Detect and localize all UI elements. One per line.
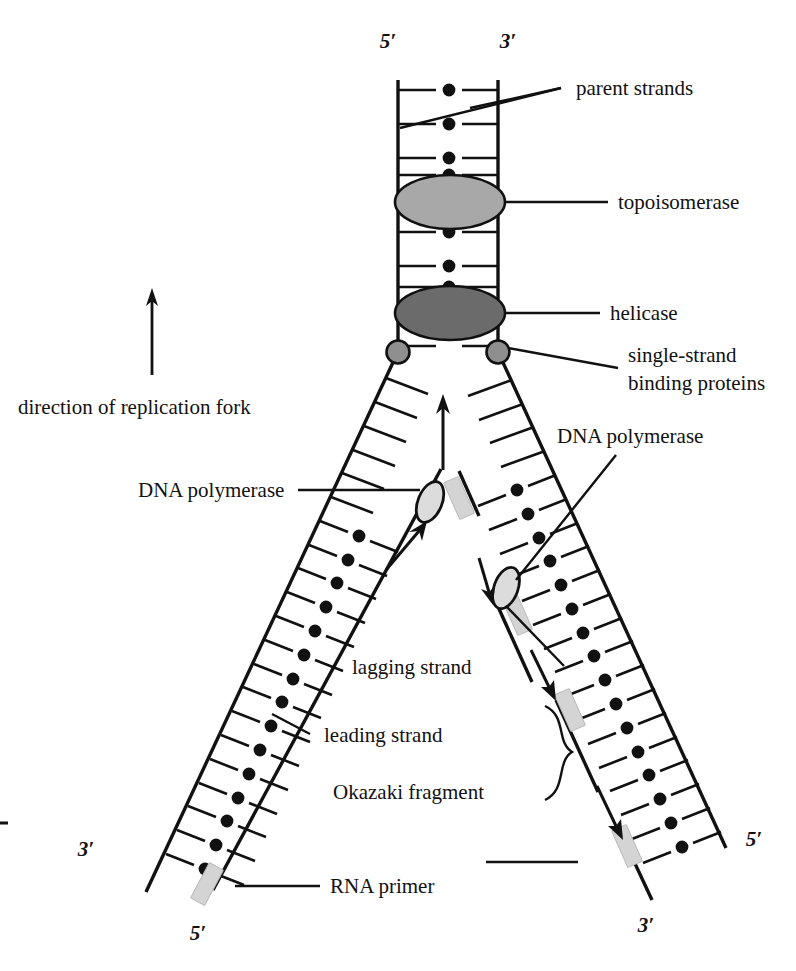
label-bottom-left-outer-prime: 3′ <box>77 837 94 861</box>
label-top-right-prime: 3′ <box>499 29 516 53</box>
topoisomerase-shape <box>395 175 505 229</box>
label-okazaki-fragment: Okazaki fragment <box>333 780 484 804</box>
figure-canvas: 5′ 3′ parent strands topoisomerase helic… <box>0 0 796 971</box>
ssb-protein-right <box>487 341 510 364</box>
label-top-left-prime: 5′ <box>380 29 396 53</box>
label-leading-strand: leading strand <box>324 723 443 747</box>
label-bottom-left-inner-prime: 5′ <box>190 921 206 945</box>
dna-replication-fork-figure: 5′ 3′ parent strands topoisomerase helic… <box>0 0 796 971</box>
label-ssb-line2: binding proteins <box>628 371 765 395</box>
label-direction-of-fork: direction of replication fork <box>18 395 251 419</box>
label-parent-strands: parent strands <box>576 76 693 100</box>
label-bottom-right-outer-prime: 5′ <box>746 827 762 851</box>
label-ssb-line1: single-strand <box>628 343 737 367</box>
label-dna-polymerase-right: DNA polymerase <box>557 424 703 448</box>
label-dna-polymerase-left: DNA polymerase <box>138 478 284 502</box>
helicase-shape <box>395 286 505 340</box>
label-helicase: helicase <box>610 301 678 325</box>
label-lagging-strand: lagging strand <box>352 655 472 679</box>
label-rna-primer: RNA primer <box>330 874 434 898</box>
label-bottom-right-inner-prime: 3′ <box>637 913 654 937</box>
ssb-protein-left <box>387 341 410 364</box>
label-topoisomerase: topoisomerase <box>618 190 739 214</box>
